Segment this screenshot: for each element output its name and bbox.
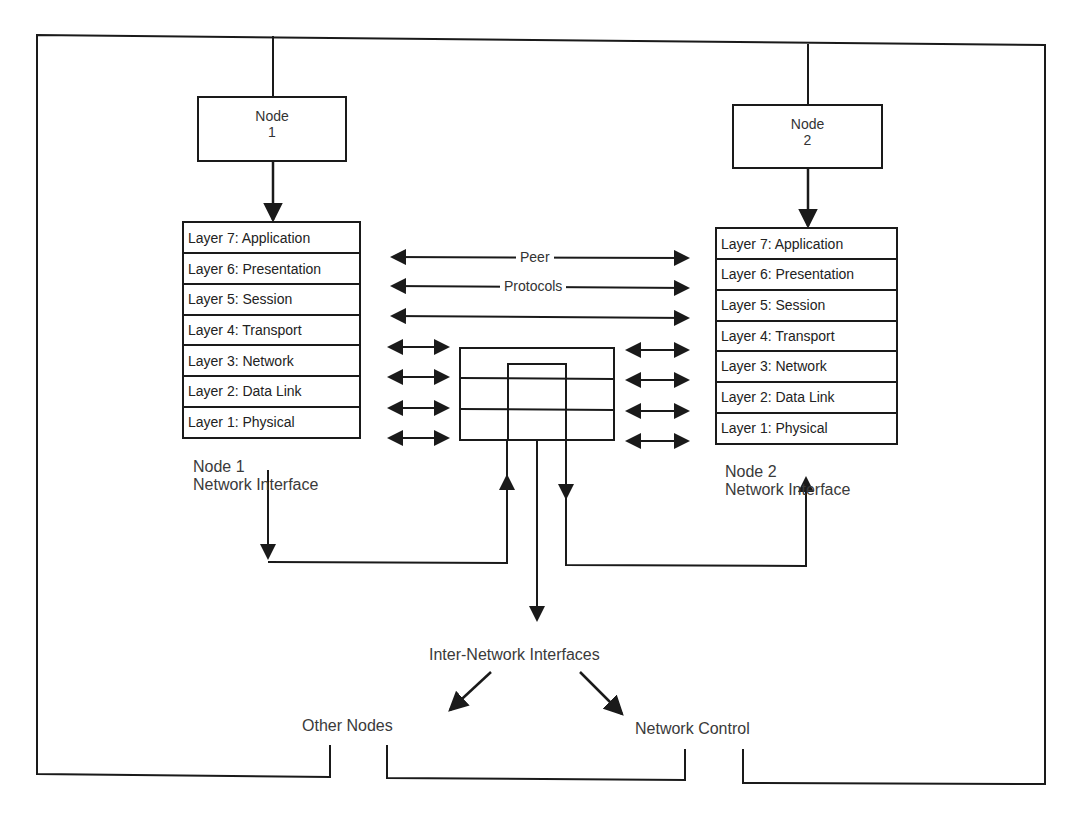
node2-label: Node 2 [733,116,882,148]
right-layer-2: Layer 2: Data Link [721,389,835,405]
protocols-label: Protocols [500,278,566,294]
node1-label: Node 1 [198,108,346,140]
node1-title: Node [198,108,346,124]
left-layer-6: Layer 6: Presentation [188,261,321,277]
left-layer-5: Layer 5: Session [188,291,292,307]
network-diagram-canvas [0,0,1073,814]
left-layer-1: Layer 1: Physical [188,414,295,430]
node2-caption-line1: Node 2 [725,463,850,481]
node2-number: 2 [733,132,882,148]
inter-network-label: Inter-Network Interfaces [429,646,600,664]
node1-caption-line2: Network Interface [193,476,318,494]
right-layer-5: Layer 5: Session [721,297,825,313]
node2-caption-line2: Network Interface [725,481,850,499]
right-layer-4: Layer 4: Transport [721,328,835,344]
node1-interface-caption: Node 1 Network Interface [193,458,318,495]
node2-title: Node [733,116,882,132]
right-layer-3: Layer 3: Network [721,358,827,374]
other-nodes-label: Other Nodes [302,717,393,735]
peer-label: Peer [516,249,554,265]
network-control-label: Network Control [635,720,750,738]
node2-interface-caption: Node 2 Network Interface [725,463,850,500]
left-layer-7: Layer 7: Application [188,230,310,246]
right-layer-7: Layer 7: Application [721,236,843,252]
right-layer-1: Layer 1: Physical [721,420,828,436]
left-layer-2: Layer 2: Data Link [188,383,302,399]
left-layer-4: Layer 4: Transport [188,322,302,338]
outer-frame-middle-bottom [387,745,685,780]
node1-caption-line1: Node 1 [193,458,318,476]
left-layer-3: Layer 3: Network [188,353,294,369]
node1-number: 1 [198,124,346,140]
right-layer-6: Layer 6: Presentation [721,266,854,282]
relay-box [460,348,614,440]
